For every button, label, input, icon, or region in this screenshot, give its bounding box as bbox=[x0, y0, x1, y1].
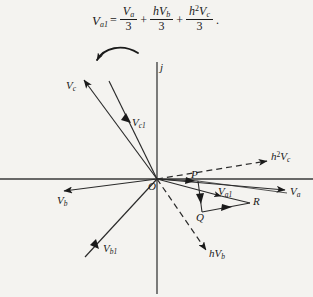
vector-label-Va1: Va1 bbox=[218, 186, 232, 198]
vector-Vc1-arrowhead bbox=[121, 113, 131, 123]
vector-Vb bbox=[64, 179, 157, 191]
vector-label-h2Vc: h2Vc bbox=[271, 151, 290, 163]
counterclockwise-rotation-arrow bbox=[97, 48, 138, 60]
figure-root: Va1=Va3+hVb3+h2Vc3. bbox=[0, 0, 313, 297]
vector-Vc bbox=[84, 80, 157, 179]
point-label-Q: Q bbox=[196, 212, 204, 223]
point-label-P: P bbox=[191, 169, 198, 180]
vector-h2Vc-dashed bbox=[157, 161, 267, 179]
vector-label-Vc1: Vc1 bbox=[132, 117, 146, 129]
vector-label-Vc: Vc bbox=[66, 80, 76, 92]
vector-label-hVb: hVb bbox=[209, 248, 225, 260]
vector-Vc1 bbox=[109, 81, 157, 179]
guide-line-P-to-Va bbox=[198, 181, 287, 193]
segment-P-to-Q-arrowhead bbox=[196, 193, 204, 204]
vector-label-Vb1: Vb1 bbox=[103, 243, 117, 255]
point-label-R: R bbox=[253, 196, 260, 207]
vector-label-Vb: Vb bbox=[57, 195, 67, 207]
vector-label-Va: Va bbox=[290, 186, 300, 198]
phasor-diagram bbox=[0, 0, 313, 297]
segment-Q-to-R-arrowhead bbox=[221, 204, 232, 211]
axis-label-j: j bbox=[160, 62, 163, 73]
origin-label-O: O bbox=[148, 181, 156, 192]
